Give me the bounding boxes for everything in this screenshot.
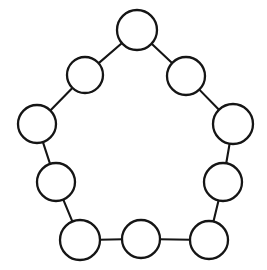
graph-node-circle[interactable]: [167, 57, 205, 95]
graph-edge: [199, 89, 220, 111]
graph-node-circle[interactable]: [204, 163, 242, 201]
graph-edge: [50, 87, 74, 111]
graph-edge: [63, 199, 73, 223]
graph-node[interactable]: [204, 163, 242, 201]
graph-edge: [213, 199, 219, 222]
graph-node-circle[interactable]: [190, 221, 228, 259]
graph-node[interactable]: [213, 104, 253, 144]
graph-node-circle[interactable]: [60, 220, 100, 260]
cycle-graph-canvas: [0, 0, 267, 270]
graph-node[interactable]: [37, 163, 75, 201]
graph-node[interactable]: [167, 57, 205, 95]
graph-node[interactable]: [18, 105, 56, 143]
graph-node-circle[interactable]: [213, 104, 253, 144]
graph-node-circle[interactable]: [37, 163, 75, 201]
graph-figure: [0, 0, 267, 270]
graph-edge: [151, 43, 173, 64]
graph-node[interactable]: [67, 57, 103, 93]
node-layer: [18, 10, 253, 260]
graph-node-circle[interactable]: [67, 57, 103, 93]
graph-node[interactable]: [122, 220, 160, 258]
graph-edge: [43, 141, 51, 165]
graph-node-circle[interactable]: [117, 10, 157, 50]
graph-node[interactable]: [60, 220, 100, 260]
graph-node[interactable]: [117, 10, 157, 50]
graph-edge: [98, 42, 123, 63]
graph-edge: [226, 143, 230, 165]
graph-node[interactable]: [190, 221, 228, 259]
graph-node-circle[interactable]: [18, 105, 56, 143]
graph-node-circle[interactable]: [122, 220, 160, 258]
